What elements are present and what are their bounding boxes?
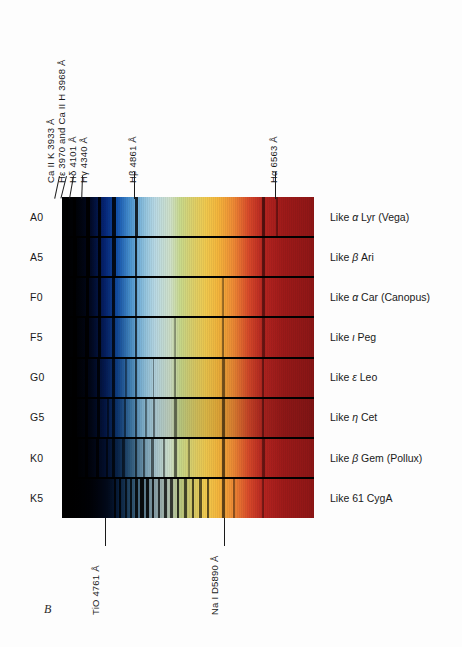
like-prefix: Like bbox=[330, 371, 352, 383]
like-prefix: Like bbox=[330, 211, 352, 223]
like-rest: Cet bbox=[358, 411, 377, 423]
absorption-lines-g0 bbox=[62, 358, 314, 398]
annotation-tio: TiO 4761 Å bbox=[90, 565, 101, 615]
star-analog-label-f5: Like ι Peg bbox=[330, 331, 376, 343]
star-analog-label-g0: Like ε Leo bbox=[330, 371, 377, 383]
class-label-g0: G0 bbox=[30, 371, 58, 383]
spectrum-row-k5 bbox=[62, 478, 314, 518]
annotation-h-beta: Hβ 4861 Å bbox=[127, 136, 138, 183]
leader-line-na-d bbox=[224, 518, 225, 546]
spectrum-row-k0 bbox=[62, 438, 314, 478]
like-prefix: Like bbox=[330, 452, 352, 464]
like-rest: Ari bbox=[358, 251, 374, 263]
absorption-lines-f0 bbox=[62, 277, 314, 317]
spectrum-row-g0 bbox=[62, 358, 314, 398]
absorption-lines-a5 bbox=[62, 237, 314, 277]
spectrum-row-f0 bbox=[62, 277, 314, 317]
star-analog-label-f0: Like α Car (Canopus) bbox=[330, 291, 430, 303]
absorption-lines-g5 bbox=[62, 398, 314, 438]
star-analog-label-g5: Like η Cet bbox=[330, 411, 377, 423]
like-prefix: Like bbox=[330, 411, 352, 423]
absorption-lines-a0 bbox=[62, 197, 314, 237]
like-rest: Leo bbox=[357, 371, 377, 383]
annotation-ca-k: Ca II K 3933 Å bbox=[45, 118, 56, 183]
star-analog-label-k5: Like 61 CygA bbox=[330, 492, 392, 504]
class-label-f5: F5 bbox=[30, 331, 58, 343]
absorption-lines-k5 bbox=[62, 478, 314, 518]
spectrum-row-f5 bbox=[62, 317, 314, 357]
like-prefix: Like bbox=[330, 492, 352, 504]
like-prefix: Like bbox=[330, 331, 352, 343]
star-analog-label-k0: Like β Gem (Pollux) bbox=[330, 452, 422, 464]
leader-line-tio bbox=[105, 518, 106, 546]
annotation-h-epsilon: Hε 3970 and Ca II H 3968 Å bbox=[56, 59, 67, 183]
spectrum-row-a5 bbox=[62, 237, 314, 277]
annotation-h-delta: Hδ 4101 Å bbox=[67, 136, 78, 183]
spectrum-row-g5 bbox=[62, 398, 314, 438]
absorption-lines-k0 bbox=[62, 438, 314, 478]
star-analog-label-a5: Like β Ari bbox=[330, 251, 374, 263]
class-label-g5: G5 bbox=[30, 411, 58, 423]
like-prefix: Like bbox=[330, 251, 352, 263]
annotation-h-gamma: Hγ 4340 Å bbox=[78, 137, 89, 183]
class-label-f0: F0 bbox=[30, 291, 58, 303]
class-label-k5: K5 bbox=[30, 492, 58, 504]
figure-caption-letter: B bbox=[44, 602, 51, 617]
class-label-a0: A0 bbox=[30, 211, 58, 223]
like-rest: 61 CygA bbox=[352, 492, 392, 504]
star-analog-label-a0: Like α Lyr (Vega) bbox=[330, 211, 409, 223]
figure-root: A0 A5 F0 F5 G0 G5 K0 K5 Like α Lyr (Vega… bbox=[0, 0, 462, 647]
like-rest: Peg bbox=[355, 331, 377, 343]
annotation-na-d: Na I D5890 Å bbox=[209, 556, 220, 615]
like-rest: Gem (Pollux) bbox=[358, 452, 422, 464]
spectrum-strip-stack bbox=[62, 197, 314, 518]
like-rest: Lyr (Vega) bbox=[358, 211, 409, 223]
class-label-a5: A5 bbox=[30, 251, 58, 263]
like-prefix: Like bbox=[330, 291, 352, 303]
absorption-lines-f5 bbox=[62, 317, 314, 357]
annotation-h-alpha: Hα 6563 Å bbox=[268, 136, 279, 183]
spectrum-row-a0 bbox=[62, 197, 314, 237]
like-rest: Car (Canopus) bbox=[358, 291, 430, 303]
class-label-k0: K0 bbox=[30, 452, 58, 464]
